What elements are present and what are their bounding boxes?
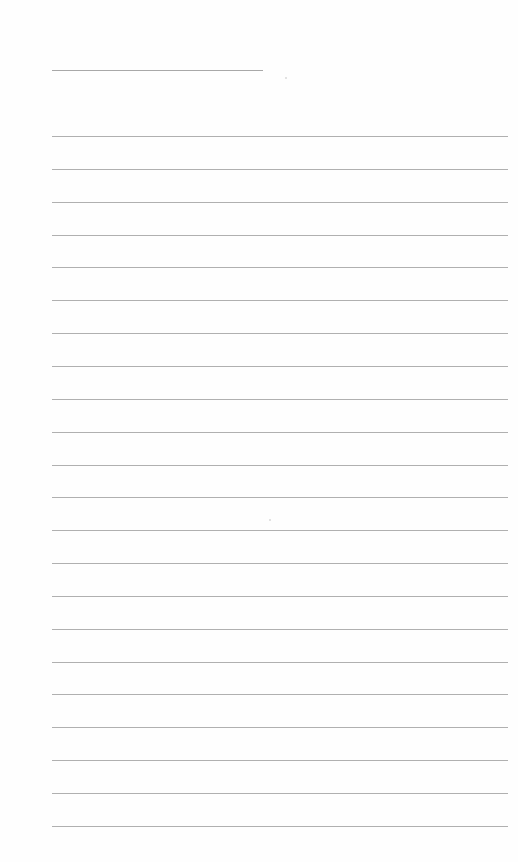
ruled-line — [52, 366, 508, 367]
ruled-line — [52, 267, 508, 268]
ruled-line — [52, 202, 508, 203]
ruled-line — [52, 432, 508, 433]
title-line — [52, 70, 263, 71]
lined-paper-page — [0, 0, 518, 862]
paper-speck — [285, 77, 287, 79]
ruled-line — [52, 727, 508, 728]
ruled-line — [52, 465, 508, 466]
ruled-line — [52, 826, 508, 827]
ruled-line — [52, 694, 508, 695]
ruled-line — [52, 136, 508, 137]
ruled-line — [52, 497, 508, 498]
ruled-line — [52, 760, 508, 761]
ruled-line — [52, 169, 508, 170]
ruled-line — [52, 596, 508, 597]
paper-speck — [269, 519, 271, 521]
ruled-line — [52, 333, 508, 334]
ruled-line — [52, 235, 508, 236]
ruled-line — [52, 300, 508, 301]
ruled-line — [52, 629, 508, 630]
ruled-line — [52, 563, 508, 564]
ruled-line — [52, 793, 508, 794]
ruled-line — [52, 530, 508, 531]
ruled-line — [52, 662, 508, 663]
ruled-line — [52, 399, 508, 400]
